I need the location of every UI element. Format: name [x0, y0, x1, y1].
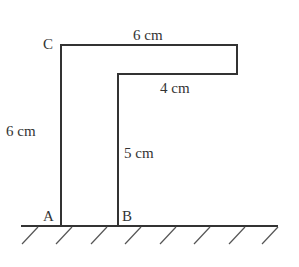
l-shape-outline — [61, 45, 237, 226]
dimension-inner-height: 5 cm — [124, 145, 154, 161]
point-label-b: B — [122, 208, 132, 224]
figure-canvas: C A B 6 cm 6 cm 4 cm 5 cm — [0, 0, 299, 267]
dimension-left-height: 6 cm — [6, 123, 36, 139]
dimension-inner-width: 4 cm — [160, 80, 190, 96]
dimension-top-width: 6 cm — [133, 27, 163, 43]
point-label-a: A — [43, 208, 54, 224]
ground-hatching — [22, 227, 278, 244]
point-label-c: C — [43, 36, 53, 52]
